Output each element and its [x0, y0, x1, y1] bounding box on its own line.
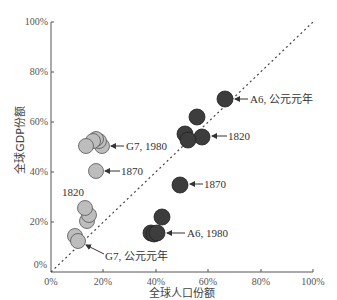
y-tick-label: 40%: [30, 166, 48, 177]
y-tick-label: 80%: [30, 66, 48, 77]
data-point-g7-1870: [89, 164, 104, 179]
x-tick-label: 60%: [199, 276, 217, 287]
y-tick-label: 0%: [34, 259, 47, 270]
annotation-a6-ad1: A6, 公元元年: [250, 92, 313, 105]
data-point-g7-1820: [78, 201, 93, 216]
y-axis-title: 全球GDP份额: [13, 106, 27, 174]
series-a6: [143, 91, 233, 242]
annotation-g7-1820: 1820: [62, 186, 85, 198]
annotation-g7-ad1: G7, 公元元年: [105, 249, 168, 262]
x-tick-label: 0%: [44, 276, 57, 287]
data-point-a6-1980: [149, 225, 165, 241]
data-point-a6-1820: [180, 132, 196, 148]
x-tick-label: 20%: [94, 276, 112, 287]
x-tick-label: 40%: [147, 276, 165, 287]
data-point-a6-1820: [194, 129, 210, 145]
annotation-g7-1870: 1870: [121, 165, 144, 177]
y-ticks: 100% 80% 60% 40% 20% 0%: [25, 16, 54, 270]
annotation-a6-1980: A6, 1980: [187, 227, 228, 239]
x-tick-label: 80%: [252, 276, 270, 287]
data-point-g7-1980: [79, 139, 94, 154]
data-point-a6-1870: [172, 177, 188, 193]
x-axis-title: 全球人口份额: [149, 286, 215, 300]
y-tick-label: 20%: [30, 216, 48, 227]
annotation-a6-1820: 1820: [228, 130, 251, 142]
data-point-a6-1980: [154, 209, 170, 225]
y-tick-label: 100%: [25, 16, 48, 27]
x-tick-label: 100%: [301, 276, 324, 287]
scatter-chart: 100% 80% 60% 40% 20% 0% 0% 20% 40% 60% 8…: [0, 0, 337, 300]
annotation-g7-1980: G7, 1980: [126, 140, 167, 152]
data-point-a6-ad1: [189, 109, 205, 125]
data-point-a6-ad1: [217, 91, 233, 107]
y-tick-label: 60%: [30, 116, 48, 127]
data-point-g7-ad1: [71, 234, 86, 249]
annotation-a6-1870: 1870: [204, 178, 227, 190]
